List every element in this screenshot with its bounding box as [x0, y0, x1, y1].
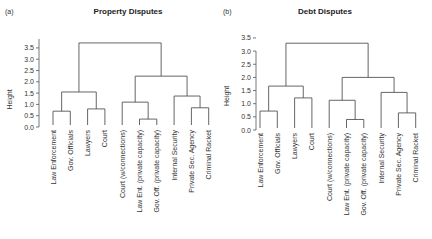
chart-title: Property Disputes [94, 7, 163, 16]
y-tick-label: 1.0 [241, 100, 251, 107]
chart-title: Debt Disputes [298, 7, 352, 16]
dendrogram-branch [122, 102, 148, 125]
y-tick-label: 2.5 [241, 61, 251, 68]
dendrogram-branch [347, 119, 364, 128]
dendrogram-branch [174, 96, 200, 125]
leaf-label: Court (w/connections) [119, 130, 127, 198]
dendrogram-branch [53, 111, 70, 125]
dendrogram-branch [286, 43, 368, 86]
y-tick-label: 0.0 [241, 127, 251, 134]
dendrogram-branch [88, 109, 105, 125]
y-tick-label: 2.0 [241, 74, 251, 81]
leaf-label: Law Enforcement [50, 130, 57, 185]
dendrogram-branch [329, 100, 355, 128]
y-tick-label: 3.5 [241, 34, 251, 41]
dendrogram-branch [140, 119, 157, 125]
dendrogram-branch [79, 43, 161, 92]
leaf-label: Court [101, 130, 108, 147]
y-tick-label: 3.0 [24, 56, 34, 63]
leaf-label: Court (w/connections) [326, 133, 334, 201]
leaf-label: Criminal Racket [412, 133, 419, 182]
dendrogram-branch [135, 76, 187, 102]
dendrogram-branch [295, 98, 312, 128]
leaf-label: Gov. Off. (private capacity) [153, 130, 161, 213]
y-axis-label: Height [223, 86, 231, 106]
y-tick-label: 0.0 [24, 124, 34, 131]
leaf-label: Law Ent. (private capacity) [343, 133, 351, 215]
dendrogram-branch [62, 92, 97, 111]
y-tick-label: 0.5 [24, 112, 34, 119]
panel-label: (b) [223, 8, 232, 16]
dendrogram-figure: (a)Property Disputes0.00.51.01.52.02.53.… [0, 0, 432, 239]
dendrogram-branch [381, 92, 407, 128]
leaf-label: Law Ent. (private capacity) [136, 130, 144, 212]
leaf-label: Gov. Off. (private capacity) [360, 133, 368, 216]
y-tick-label: 1.0 [24, 101, 34, 108]
y-axis-label: Height [6, 89, 14, 109]
leaf-label: Internal Security [378, 133, 386, 184]
leaf-label: Court [308, 133, 315, 150]
panel-label: (a) [5, 8, 14, 16]
leaf-label: Law Enforcement [257, 133, 264, 188]
dendrogram-branch [398, 113, 415, 128]
dendrogram-branch [260, 111, 277, 128]
y-tick-label: 2.0 [24, 78, 34, 85]
leaf-label: Gov. Officials [274, 133, 281, 174]
y-tick-label: 3.5 [24, 44, 34, 51]
leaf-label: Lawyers [291, 133, 299, 160]
y-tick-label: 1.5 [241, 87, 251, 94]
y-tick-label: 0.5 [241, 113, 251, 120]
y-tick-label: 2.5 [24, 67, 34, 74]
dendrogram-branch [191, 108, 208, 125]
dendrogram-branch [269, 86, 304, 111]
leaf-label: Criminal Racket [205, 130, 212, 179]
leaf-label: Private Sec. Agency [395, 133, 403, 196]
y-tick-label: 3.0 [241, 48, 251, 55]
y-tick-label: 1.5 [24, 90, 34, 97]
leaf-label: Lawyers [84, 130, 92, 157]
dendrogram-branch [342, 77, 394, 100]
leaf-label: Private Sec. Agency [188, 130, 196, 193]
leaf-label: Gov. Officials [67, 130, 74, 171]
leaf-label: Internal Security [171, 130, 179, 181]
